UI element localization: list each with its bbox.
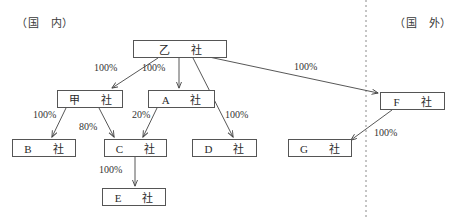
node-g-company[interactable]: G 社 xyxy=(288,139,352,157)
node-e-company[interactable]: E 社 xyxy=(102,188,166,206)
node-b-company[interactable]: B 社 xyxy=(12,139,76,157)
node-d-label: D 社 xyxy=(200,140,250,156)
edge-label-otsu-to-a: 100% xyxy=(142,62,165,73)
node-d-company[interactable]: D 社 xyxy=(192,139,257,157)
node-otsu-label: 乙 社 xyxy=(154,41,207,57)
node-kou-label: 甲 社 xyxy=(64,91,117,107)
node-f-label: F 社 xyxy=(388,93,436,109)
edge-label-kou-to-b: 100% xyxy=(33,109,56,120)
node-c-company[interactable]: C 社 xyxy=(104,139,167,157)
edge-kou-to-c xyxy=(99,108,114,137)
edge-label-a-to-c: 20% xyxy=(132,109,150,120)
node-kou-company[interactable]: 甲 社 xyxy=(57,90,123,108)
node-f-company[interactable]: F 社 xyxy=(380,92,445,110)
node-otsu-company[interactable]: 乙 社 xyxy=(133,40,227,58)
edge-label-otsu-to-d: 100% xyxy=(225,109,248,120)
node-a-company[interactable]: A 社 xyxy=(148,90,215,108)
edge-label-f-to-g: 100% xyxy=(374,127,397,138)
ownership-structure-diagram: （国 内） （国 外） 乙 社 甲 社 xyxy=(0,0,451,218)
edge-label-kou-to-c: 80% xyxy=(79,121,97,132)
node-e-label: E 社 xyxy=(110,189,159,205)
node-b-label: B 社 xyxy=(19,140,68,156)
node-g-label: G 社 xyxy=(295,140,345,156)
node-a-label: A 社 xyxy=(157,91,206,107)
node-c-label: C 社 xyxy=(111,140,160,156)
edge-label-otsu-to-f: 100% xyxy=(294,61,317,72)
edge-label-otsu-to-kou: 100% xyxy=(94,62,117,73)
edge-label-c-to-e: 100% xyxy=(99,164,122,175)
